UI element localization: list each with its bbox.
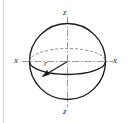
sphere-diagram: [0, 0, 130, 123]
x-axis-label-right: x: [113, 56, 117, 65]
z-axis-label-bottom: z: [63, 107, 67, 116]
x-axis-label-left: x: [14, 56, 18, 65]
sphere-figure: x x z z r: [0, 0, 130, 123]
radius-label: r: [44, 60, 47, 68]
z-axis-label-top: z: [63, 8, 67, 17]
